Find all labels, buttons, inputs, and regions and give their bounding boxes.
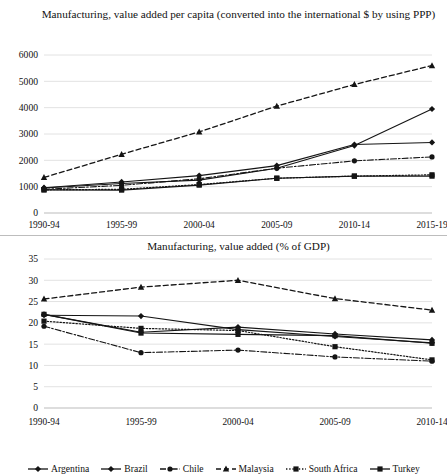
legend-item-chile[interactable]: Chile (159, 463, 204, 474)
series-marker-turkey (332, 333, 337, 338)
legend-item-turkey[interactable]: Turkey (369, 463, 420, 474)
series-marker-turkey (352, 174, 357, 179)
y-axis-tick-label: 20 (28, 317, 38, 328)
x-axis-tick-label: 2010-14 (339, 220, 371, 230)
legend-marker (108, 465, 114, 471)
chart-panel-pct-gdp: Manufacturing, value added (% of GDP) 05… (0, 236, 447, 476)
series-marker-turkey (274, 176, 279, 181)
y-axis-tick-label: 35 (28, 253, 38, 264)
series-marker-malaysia (274, 103, 280, 109)
legend-swatch-solid-square (369, 464, 391, 474)
series-marker-turkey (197, 182, 202, 187)
chart-figure: Manufacturing, value added per capita (c… (0, 0, 447, 476)
series-marker-brazil (138, 313, 144, 319)
series-marker-chile (352, 158, 357, 163)
legend-item-malaysia[interactable]: Malaysia (215, 463, 274, 474)
series-marker-south-africa (429, 357, 434, 362)
chart-legend: ArgentinaBrazilChileMalaysiaSouth Africa… (0, 463, 447, 474)
legend-label: Malaysia (239, 463, 274, 474)
series-marker-south-africa (138, 326, 143, 331)
series-marker-malaysia (429, 62, 435, 68)
x-axis-tick-label: 2000-04 (222, 417, 254, 427)
y-axis-tick-label: 15 (28, 339, 38, 350)
series-line-south-africa (44, 175, 432, 190)
legend-marker (35, 465, 41, 471)
x-axis-tick-label: 2015-19 (416, 220, 447, 230)
x-axis-tick-label: 2005-09 (319, 417, 351, 427)
series-marker-chile (197, 176, 202, 181)
series-line-malaysia (44, 280, 432, 310)
legend-swatch-dotted-square (285, 464, 307, 474)
series-marker-chile (274, 166, 279, 171)
series-marker-turkey (138, 330, 143, 335)
x-axis-tick-label: 2010-14 (416, 417, 447, 427)
series-marker-chile (138, 350, 143, 355)
y-axis-tick-label: 10 (28, 360, 38, 371)
series-marker-chile (332, 354, 337, 359)
plot-area-pct-gdp: 051015202530351990-941995-992000-042005-… (0, 236, 447, 432)
legend-item-south-africa[interactable]: South Africa (285, 463, 358, 474)
series-line-brazil (44, 142, 432, 187)
legend-label: South Africa (309, 463, 358, 474)
legend-swatch-dashed-triangle (215, 464, 237, 474)
legend-label: Argentina (51, 463, 89, 474)
legend-marker (167, 466, 172, 471)
series-marker-turkey (429, 174, 434, 179)
x-axis-tick-label: 1990-94 (28, 220, 60, 230)
series-marker-argentina (429, 106, 435, 112)
legend-marker (293, 466, 298, 471)
y-axis-tick-label: 1000 (19, 181, 38, 192)
legend-label: Brazil (124, 463, 147, 474)
series-marker-chile (235, 348, 240, 353)
series-marker-turkey (119, 187, 124, 192)
legend-swatch-dashdot-circle (159, 464, 181, 474)
x-axis-tick-label: 1990-94 (28, 417, 60, 427)
series-marker-turkey (429, 341, 434, 346)
y-axis-tick-label: 30 (28, 275, 38, 286)
legend-swatch-solid-diamond (27, 464, 49, 474)
y-axis-tick-label: 0 (33, 207, 38, 218)
legend-marker (377, 466, 382, 471)
legend-label: Chile (183, 463, 204, 474)
series-marker-chile (41, 324, 46, 329)
plot-area-per-capita: 01000200030004000500060001990-941995-992… (0, 0, 447, 236)
y-axis-tick-label: 2000 (19, 155, 38, 166)
chart-panel-per-capita: Manufacturing, value added per capita (c… (0, 0, 447, 236)
series-marker-turkey (41, 312, 46, 317)
series-marker-malaysia (351, 81, 357, 87)
legend-label: Turkey (393, 463, 420, 474)
x-axis-tick-label: 2000-04 (184, 220, 216, 230)
series-marker-chile (429, 154, 434, 159)
x-axis-tick-label: 1995-99 (125, 417, 157, 427)
x-axis-tick-label: 1995-99 (106, 220, 138, 230)
legend-item-brazil[interactable]: Brazil (100, 463, 147, 474)
series-marker-turkey (235, 332, 240, 337)
y-axis-tick-label: 0 (33, 402, 38, 413)
y-axis-tick-label: 3000 (19, 128, 38, 139)
series-marker-south-africa (41, 319, 46, 324)
legend-swatch-solid-diamond (100, 464, 122, 474)
series-marker-south-africa (332, 344, 337, 349)
legend-item-argentina[interactable]: Argentina (27, 463, 89, 474)
y-axis-tick-label: 6000 (19, 49, 38, 60)
y-axis-tick-label: 5000 (19, 76, 38, 87)
series-marker-turkey (41, 187, 46, 192)
series-marker-brazil (429, 139, 435, 145)
y-axis-tick-label: 25 (28, 296, 38, 307)
x-axis-tick-label: 2005-09 (261, 220, 293, 230)
y-axis-tick-label: 5 (33, 381, 38, 392)
y-axis-tick-label: 4000 (19, 102, 38, 113)
